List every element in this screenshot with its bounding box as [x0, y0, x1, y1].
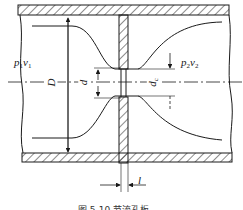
- downstream-state-label: p2v2: [181, 57, 198, 70]
- orifice-plate: [119, 15, 128, 163]
- top-pipe-wall: [18, 5, 229, 15]
- orifice-diameter-label: d: [78, 79, 89, 87]
- right-break-line: [229, 15, 232, 153]
- pipe-diameter-label: D: [46, 78, 57, 88]
- left-break-line: [20, 15, 23, 153]
- upstream-state-label: p1v1: [14, 57, 31, 70]
- orifice-diagram: [0, 0, 243, 210]
- plate-thickness-label: l: [138, 175, 141, 186]
- figure-caption: 图 5-10 节流孔板: [78, 203, 149, 210]
- contracted-diameter-label: dc: [147, 77, 160, 88]
